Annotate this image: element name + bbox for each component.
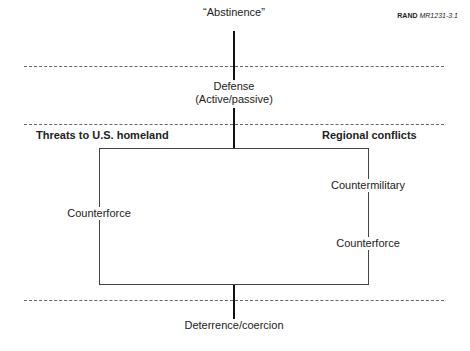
spine-bottom [233, 284, 235, 319]
right-counterforce-label: Counterforce [328, 237, 408, 250]
left-heading: Threats to U.S. homeland [36, 129, 169, 141]
spine-top [233, 31, 235, 81]
source-org: RAND [397, 12, 417, 19]
source-id: MR1231-3.1 [419, 12, 458, 19]
box-right [368, 148, 369, 285]
left-counterforce-label: Counterforce [59, 207, 139, 220]
box-bottom [99, 284, 369, 285]
deterrence-label: Deterrence/coercion [174, 319, 294, 332]
defense-label-line2: (Active/passive) [179, 93, 289, 106]
defense-label-line1: Defense [179, 80, 289, 93]
abstinence-label: “Abstinence” [184, 6, 284, 19]
defense-label: Defense (Active/passive) [179, 80, 289, 108]
right-countermilitary-label: Countermilitary [323, 179, 413, 192]
right-heading: Regional conflicts [322, 129, 417, 141]
box-top [99, 148, 369, 149]
source-tag: RAND MR1231-3.1 [397, 12, 458, 19]
